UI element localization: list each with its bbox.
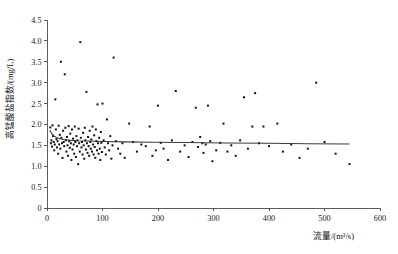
data-point	[251, 126, 253, 128]
data-point	[49, 126, 51, 128]
data-point	[68, 125, 70, 127]
data-point	[140, 143, 142, 145]
y-axis-ticks: 00.51.01.52.02.53.03.54.04.5	[31, 16, 47, 213]
data-point	[188, 156, 190, 158]
data-point	[80, 146, 82, 148]
data-point	[94, 146, 96, 148]
data-point	[105, 154, 107, 156]
data-point	[86, 142, 88, 144]
y-tick-label: 1.0	[31, 162, 41, 171]
data-point	[96, 149, 98, 151]
data-point	[83, 158, 85, 160]
data-point	[72, 149, 74, 151]
data-point	[83, 144, 85, 146]
data-point	[222, 123, 224, 125]
data-point	[62, 157, 64, 159]
y-tick-label: 3.5	[31, 58, 41, 67]
data-point	[179, 151, 181, 153]
data-point	[52, 124, 54, 126]
data-point	[145, 145, 147, 147]
data-point	[90, 148, 92, 150]
data-point	[67, 144, 69, 146]
y-tick-label: 4.5	[31, 16, 41, 25]
data-point	[175, 90, 177, 92]
data-point	[82, 154, 84, 156]
data-point	[215, 149, 217, 151]
data-point	[59, 148, 61, 150]
data-point	[58, 143, 60, 145]
data-point	[247, 148, 249, 150]
data-point	[108, 149, 110, 151]
y-tick-label: 1.5	[31, 141, 41, 150]
data-point	[79, 41, 81, 43]
axes-group	[47, 20, 380, 208]
data-point	[90, 138, 92, 140]
data-point	[94, 157, 96, 159]
data-point	[203, 152, 205, 154]
data-point	[75, 135, 77, 137]
data-point	[65, 151, 67, 153]
data-point	[69, 133, 71, 135]
data-point	[63, 145, 65, 147]
data-point	[54, 143, 56, 145]
chart-canvas: 00.51.01.52.02.53.03.54.04.5 01002003004…	[0, 0, 398, 254]
data-point	[66, 136, 68, 138]
data-point	[307, 148, 309, 150]
data-point	[76, 145, 78, 147]
y-tick-label: 2.5	[31, 100, 41, 109]
data-point	[167, 159, 169, 161]
data-point	[226, 151, 228, 153]
data-point	[109, 135, 111, 137]
data-point	[211, 160, 213, 162]
data-point	[87, 136, 89, 138]
data-point	[55, 128, 57, 130]
y-tick-label: 0	[37, 204, 41, 213]
x-tick-label: 400	[263, 214, 275, 223]
data-point	[209, 140, 211, 142]
y-tick-label: 3.0	[31, 79, 41, 88]
data-point	[53, 141, 55, 143]
data-point	[70, 159, 72, 161]
data-point	[195, 107, 197, 109]
data-point	[77, 163, 79, 165]
data-point	[92, 126, 94, 128]
data-point	[75, 156, 77, 158]
data-point	[98, 153, 100, 155]
data-point	[85, 91, 87, 93]
data-point	[117, 148, 119, 150]
data-point	[57, 140, 59, 142]
data-point	[128, 123, 130, 125]
data-point	[85, 149, 87, 151]
data-point	[197, 146, 199, 148]
data-point	[97, 103, 99, 105]
data-point	[276, 123, 278, 125]
data-points-group	[49, 41, 350, 165]
data-point	[58, 125, 60, 127]
data-point	[151, 155, 153, 157]
y-tick-label: 0.5	[31, 183, 41, 192]
y-axis-title: 高锰酸盐指数/(mg/L)	[4, 58, 15, 139]
data-point	[235, 155, 237, 157]
data-point	[299, 157, 301, 159]
data-point	[110, 158, 112, 160]
x-axis-ticks: 0100200300400500600	[45, 208, 386, 223]
data-point	[73, 143, 75, 145]
data-point	[104, 146, 106, 148]
data-point	[149, 126, 151, 128]
data-point	[95, 128, 97, 130]
data-point	[92, 143, 94, 145]
x-tick-label: 100	[96, 214, 108, 223]
data-point	[72, 138, 74, 140]
data-point	[97, 142, 99, 144]
data-point	[63, 141, 65, 143]
data-point	[239, 139, 241, 141]
data-point	[93, 154, 95, 156]
data-point	[78, 142, 80, 144]
data-point	[99, 148, 101, 150]
data-point	[107, 142, 109, 144]
data-point	[73, 153, 75, 155]
x-tick-label: 200	[152, 214, 164, 223]
data-point	[88, 155, 90, 157]
data-point	[74, 141, 76, 143]
x-tick-label: 600	[374, 214, 386, 223]
